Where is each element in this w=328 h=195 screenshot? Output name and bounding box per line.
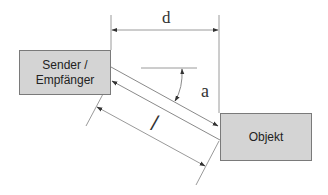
- l-extension-left: [86, 94, 103, 126]
- diagram-canvas: Sender / Empfänger Objekt d a l: [0, 0, 328, 195]
- angle-label-a: a: [201, 82, 209, 100]
- sender-label-line1: Sender /: [36, 58, 95, 73]
- angle-arc: [175, 69, 182, 101]
- distance-label-d: d: [162, 9, 171, 26]
- sender-receiver-box: Sender / Empfänger: [19, 50, 111, 95]
- l-dimension-arrow: [97, 107, 205, 166]
- object-label: Objekt: [249, 130, 284, 145]
- diagram-lines: [0, 0, 328, 195]
- object-box: Objekt: [220, 113, 312, 161]
- sender-label-line2: Empfänger: [36, 73, 95, 88]
